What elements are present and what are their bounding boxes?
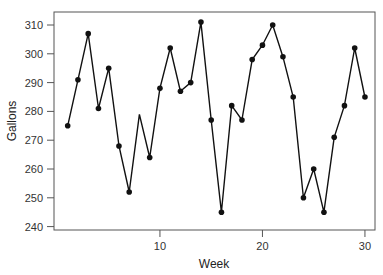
data-point: [239, 117, 245, 123]
data-point: [178, 88, 184, 94]
data-point: [331, 135, 337, 141]
y-tick-label: 300: [25, 48, 43, 60]
data-point: [147, 155, 153, 161]
data-point: [75, 77, 81, 83]
data-point: [260, 42, 266, 48]
data-point: [157, 86, 163, 92]
x-axis-title: Week: [199, 257, 230, 271]
plot-frame: [54, 12, 375, 230]
y-tick-label: 250: [25, 192, 43, 204]
data-point: [65, 123, 71, 129]
x-tick-label: 20: [256, 240, 268, 252]
data-point: [352, 45, 358, 51]
data-point: [126, 189, 132, 195]
data-point: [321, 209, 327, 215]
data-point: [188, 80, 194, 86]
data-point: [208, 117, 214, 123]
y-tick-label: 310: [25, 19, 43, 31]
y-tick-label: 280: [25, 105, 43, 117]
x-axis: 102030: [154, 230, 371, 252]
line-chart: 240250260270280290300310 102030 Week Gal…: [0, 0, 383, 275]
data-point: [116, 143, 122, 149]
data-point: [96, 106, 102, 112]
data-point: [270, 22, 276, 28]
data-point: [106, 65, 112, 71]
y-tick-label: 270: [25, 134, 43, 146]
x-tick-label: 10: [154, 240, 166, 252]
data-point: [342, 103, 348, 109]
data-point: [85, 31, 91, 37]
y-tick-label: 290: [25, 77, 43, 89]
y-tick-label: 240: [25, 221, 43, 233]
data-point: [280, 54, 286, 60]
y-axis-title: Gallons: [5, 101, 19, 142]
x-tick-label: 30: [359, 240, 371, 252]
data-point: [301, 195, 307, 201]
data-point: [249, 57, 255, 63]
data-point: [362, 94, 368, 100]
data-point: [219, 209, 225, 215]
data-point: [290, 94, 296, 100]
series-markers: [65, 19, 368, 215]
y-axis: 240250260270280290300310: [25, 19, 54, 233]
data-point: [311, 166, 317, 172]
data-point: [167, 45, 173, 51]
series-line: [68, 22, 365, 212]
y-tick-label: 260: [25, 163, 43, 175]
data-point: [229, 103, 235, 109]
data-point: [198, 19, 204, 25]
